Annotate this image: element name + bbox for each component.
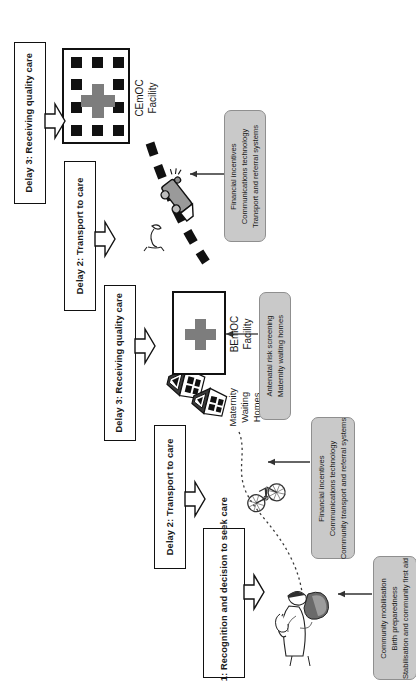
chevron-arrow-delay2-ambulance [94,218,116,260]
waiting-homes-line-1: Maternity [227,388,239,427]
medical-cross-icon [195,319,206,350]
delay-box-delay2-ambulance[interactable]: Delay 2: Transport to care [64,161,96,311]
delay1-recognition-label: Delay 1: Recognition and decision to see… [218,497,230,682]
dashed-road-icon [150,143,206,262]
bemoc-antenatal-line-2: Maternity waiting homes [275,315,286,397]
waiting-homes-line-2: Waiting [239,388,251,427]
dotted-path-icon [239,432,302,592]
bemoc-antenatal-line-1: Antenatal risk screening [264,315,275,397]
cemoc-transport-line-2: Communications technology [240,124,251,227]
ambulance-icon [151,164,208,224]
bemoc-facility-label: BEmOC Facility [220,294,262,374]
cemoc-facility-building [62,48,130,144]
chevron-arrow-delay1 [243,570,265,614]
intervention-box-bemoc-antenatal[interactable]: Antenatal risk screening Maternity waiti… [259,292,291,420]
chevron-arrow-delay3-bemoc [134,325,156,367]
cemoc-label-line-2: Facility [146,79,159,116]
delay-box-delay3-bemoc[interactable]: Delay 3: Receiving quality care [104,285,136,441]
intervention-box-community-transport[interactable]: Financial incentives Communications tech… [311,417,355,559]
delay2-community-label: Delay 2: Transport to care [164,439,176,556]
bemoc-label-line-1: BEmOC [228,316,241,353]
community-mobilisation-line-1: Community mobilisation [379,557,390,678]
delay2-ambulance-label: Delay 2: Transport to care [74,178,86,295]
bemoc-label-line-2: Facility [241,316,254,353]
community-mobilisation-line-2: Birth preparedness [390,557,401,678]
intervention-box-cemoc-transport[interactable]: Financial incentives Communications tech… [224,110,266,242]
community-transport-line-3: Community transport and referral systems [339,417,350,558]
community-transport-line-1: Financial incentives [317,417,328,558]
delay-box-delay3-cemoc[interactable]: Delay 3: Receiving quality care [14,42,46,204]
cemoc-facility-label: CEmOC Facility [124,52,168,144]
bicycle-icon [245,480,289,514]
delay-box-delay2-community[interactable]: Delay 2: Transport to care [154,425,186,569]
chevron-arrow-delay3-cemoc [44,100,66,142]
delay3-cemoc-label: Delay 3: Receiving quality care [24,53,36,193]
diagram-canvas: CEmOC Facility BEmOC Facility Maternity … [0,0,416,682]
bemoc-facility-building [172,291,226,375]
person-icon [144,225,164,251]
delay-box-delay1-recognition[interactable]: Delay 1: Recognition and decision to see… [203,528,245,678]
cemoc-transport-line-1: Financial incentives [229,124,240,227]
pregnant-woman-icon [276,592,329,667]
community-mobilisation-line-3: Stabilisation and community first aid [401,557,412,678]
cemoc-label-line-1: CEmOC [133,79,146,116]
cemoc-transport-line-3: Transport and referral systems [251,124,262,227]
community-transport-line-2: Communications technology [328,417,339,558]
delay3-bemoc-label: Delay 3: Receiving quality care [114,293,126,433]
medical-cross-icon [92,84,104,118]
intervention-box-community-mobilisation[interactable]: Community mobilisation Birth preparednes… [373,556,416,680]
chevron-arrow-delay2-community [184,478,206,520]
